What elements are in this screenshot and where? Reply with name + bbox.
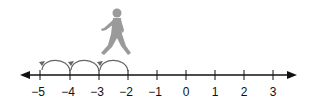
number-line-axis [20,71,297,79]
tick-label-1: 1 [203,85,227,99]
jump-arc-4-to-5 [42,60,70,71]
walking-person-icon [101,9,131,56]
jump-arcs [42,60,128,71]
tick-label-2: 2 [232,85,256,99]
tick-label-neg4: −4 [56,85,80,99]
jump-arc-2-to-3 [100,60,128,71]
tick-label-neg3: −3 [85,85,109,99]
left-arrow-icon [20,71,30,79]
tick-label-neg1: −1 [143,85,167,99]
right-arrow-icon [287,71,297,79]
tick-label-neg2: −2 [114,85,138,99]
tick-label-0: 0 [174,85,198,99]
number-line-diagram: −5 −4 −3 −2 −1 0 1 2 3 [0,0,309,107]
jump-arc-3-to-4 [71,60,99,71]
tick-label-neg5: −5 [26,85,50,99]
tick-label-3: 3 [261,85,285,99]
